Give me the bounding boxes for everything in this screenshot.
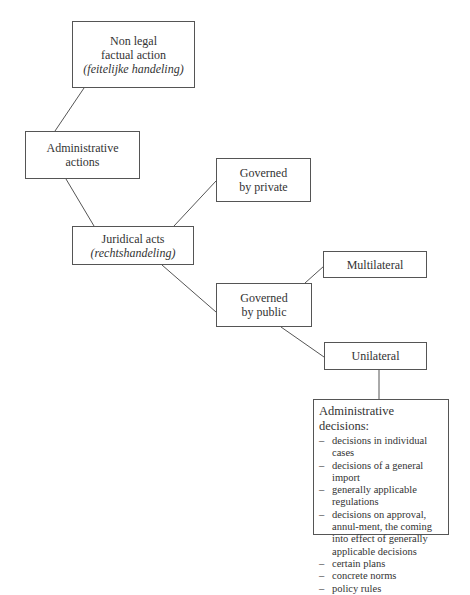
edge-juridical-public [162,265,216,312]
node-juridical-acts: Juridical acts (rechtshandeling) [72,226,194,265]
node-label: by public [242,305,287,319]
decision-list: decisions in individual cases decisions … [319,435,443,595]
node-administrative-actions: Administrative actions [25,131,140,179]
list-item: decisions on approval, annul-ment, the c… [319,509,443,558]
node-governed-by-private: Governed by private [216,158,311,202]
node-administrative-decisions: Administrative decisions: decisions in i… [313,399,449,535]
node-unilateral: Unilateral [324,342,427,370]
edge-juridical-private [174,181,216,226]
edge-public-unilateral [281,327,324,357]
edge-nonlegal-admin [55,88,84,131]
node-label: factual action [101,48,166,62]
node-label: Unilateral [352,349,400,363]
list-item: decisions in individual cases [319,435,443,460]
node-non-legal-factual-action: Non legal factual action (feitelijke han… [72,21,195,88]
node-label: Administrative [47,141,119,155]
list-item: policy rules [319,583,443,595]
node-label: Governed [240,166,287,180]
node-multilateral: Multilateral [323,251,427,278]
list-item: generally applicable regulations [319,484,443,509]
list-item: decisions of a general import [319,460,443,485]
node-title: Administrative decisions: [319,404,443,434]
list-item: concrete norms [319,570,443,582]
node-label-italic: (rechtshandeling) [91,246,176,260]
node-label: actions [66,155,100,169]
node-label-italic: (feitelijke handeling) [83,62,183,76]
node-label: Juridical acts [102,232,165,246]
node-label: Governed [240,291,287,305]
edge-public-multilateral [305,266,324,283]
node-label: Non legal [110,34,157,48]
node-label: Multilateral [347,258,404,272]
node-label: by private [239,180,287,194]
edge-admin-juridical [66,179,94,226]
list-item: certain plans [319,558,443,570]
node-governed-by-public: Governed by public [216,283,312,327]
